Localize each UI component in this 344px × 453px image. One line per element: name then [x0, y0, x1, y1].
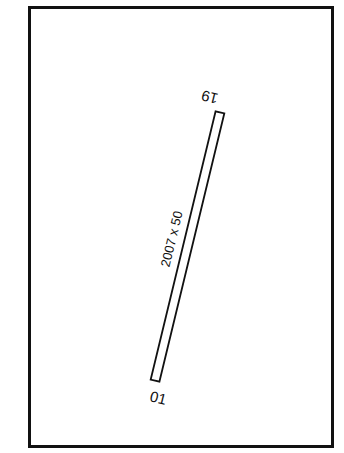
runway-end-01-label: 01	[148, 387, 168, 407]
runway-end-19-label: 19	[200, 87, 220, 107]
runway-diagram: 2007 x 50 19 01	[0, 0, 344, 453]
